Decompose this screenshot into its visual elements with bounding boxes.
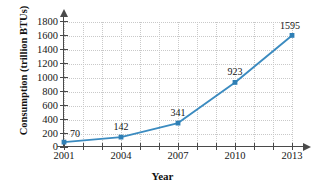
data-point-marker [290,33,295,38]
data-point-marker [176,121,181,126]
data-point-marker [119,135,124,140]
data-point-label: 923 [213,66,257,77]
data-point-label: 70 [53,128,97,139]
data-point-label: 142 [99,121,143,132]
x-axis-title: Year [0,170,325,182]
line-chart: Consumption (trillion BTUs) 1800 1600 14… [0,0,325,190]
data-point-marker [233,80,238,85]
data-point-marker [62,140,67,145]
data-point-label: 1595 [268,20,312,31]
data-point-label: 341 [156,107,200,118]
